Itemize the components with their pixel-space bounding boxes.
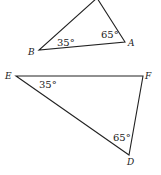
triangles-diagram: B A 35° 65° E F D 35° 65° — [0, 0, 161, 175]
triangle-def: E F D 35° 65° — [4, 71, 152, 167]
angle-label-d: 65° — [113, 132, 131, 143]
vertex-label-b: B — [27, 47, 35, 57]
triangle-abc-edges — [39, 0, 125, 50]
triangle-def-edges — [16, 76, 143, 155]
vertex-label-a: A — [127, 38, 135, 48]
angle-label-a: 65° — [101, 29, 119, 40]
angle-label-b: 35° — [57, 37, 75, 48]
vertex-label-f: F — [144, 71, 152, 81]
angle-label-e: 35° — [39, 79, 57, 90]
vertex-label-d: D — [126, 157, 134, 167]
vertex-label-e: E — [4, 71, 12, 81]
triangle-abc: B A 35° 65° — [27, 0, 135, 57]
